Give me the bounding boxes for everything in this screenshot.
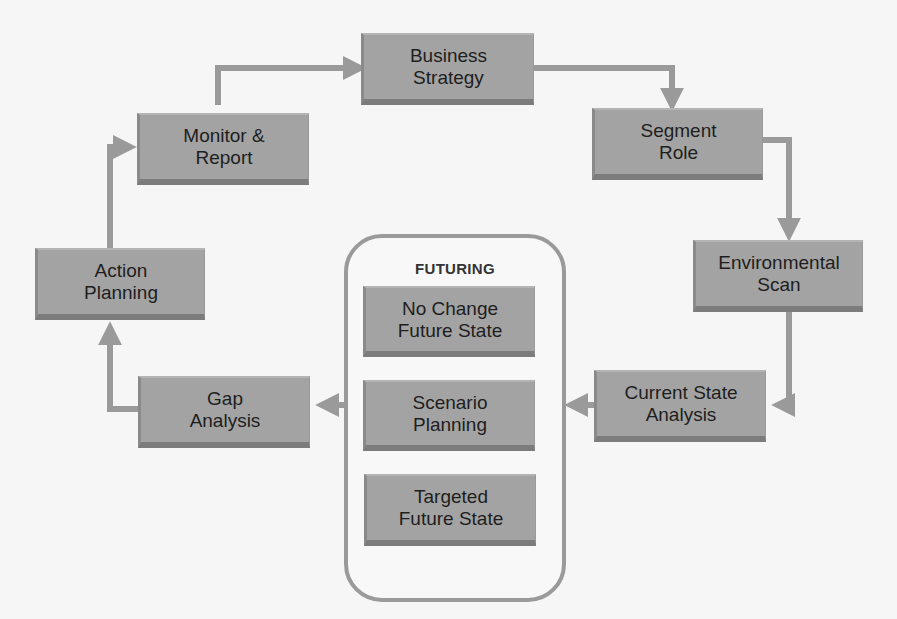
node-environmental-scan: Environmental Scan [693, 240, 863, 312]
node-label-line2: Planning [413, 414, 487, 436]
arrow-monitor-to-strategy [218, 68, 356, 105]
futuring-item-targeted-future-state: Targeted Future State [364, 474, 536, 546]
node-label-line2: Future State [399, 508, 504, 530]
futuring-item-scenario-planning: Scenario Planning [363, 380, 535, 451]
node-label-line1: Targeted [414, 486, 488, 508]
node-business-strategy: Business Strategy [361, 33, 534, 105]
node-label-line2: Analysis [646, 404, 717, 426]
node-label-line1: Current State [625, 382, 738, 404]
node-label-line1: Monitor & [183, 125, 264, 147]
node-label-line2: Role [659, 142, 698, 164]
node-label-line1: Environmental [718, 252, 839, 274]
node-label-line2: Scan [757, 274, 800, 296]
node-label-line2: Planning [84, 282, 158, 304]
node-segment-role: Segment Role [592, 108, 763, 180]
node-label-line2: Future State [398, 320, 503, 342]
node-current-state-analysis: Current State Analysis [594, 370, 766, 442]
node-label-line2: Strategy [413, 67, 484, 89]
arrow-strategy-to-segment [533, 68, 672, 101]
node-label-line1: Business [410, 45, 487, 67]
futuring-title: FUTURING [348, 260, 562, 277]
node-label-line1: No Change [402, 298, 498, 320]
node-label-line2: Report [195, 147, 252, 169]
node-label-line1: Segment [640, 120, 716, 142]
node-label-line2: Analysis [190, 410, 261, 432]
node-monitor-report: Monitor & Report [137, 113, 309, 185]
futuring-item-no-change-future-state: No Change Future State [363, 286, 535, 357]
node-action-planning: Action Planning [35, 248, 205, 320]
arrow-environmental-to-current [782, 310, 789, 405]
node-label-line1: Gap [207, 388, 243, 410]
arrow-segment-to-environmental [761, 140, 789, 231]
node-label-line1: Action [95, 260, 148, 282]
arrow-action-to-monitor [110, 147, 126, 249]
node-gap-analysis: Gap Analysis [138, 376, 310, 448]
arrow-gap-to-action [110, 332, 138, 409]
node-label-line1: Scenario [413, 392, 488, 414]
